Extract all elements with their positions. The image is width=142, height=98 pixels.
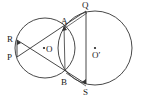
label-s: S: [83, 87, 88, 97]
chord-ab: [64, 26, 65, 71]
geometry-diagram: R P O A B Q S O′: [0, 0, 142, 98]
segment-aq-double: [65, 13, 87, 28]
label-o: O: [46, 44, 53, 54]
center-o-dot: [43, 47, 45, 49]
label-q: Q: [82, 0, 89, 10]
label-o-prime: O′: [92, 50, 100, 60]
label-b: B: [61, 77, 67, 87]
center-o-prime-dot: [94, 47, 96, 49]
label-p: P: [7, 52, 12, 62]
label-a: A: [61, 16, 68, 26]
segment-bs-double: [66, 73, 86, 86]
label-r: R: [7, 34, 13, 44]
diagram-canvas: R P O A B Q S O′: [0, 0, 142, 98]
